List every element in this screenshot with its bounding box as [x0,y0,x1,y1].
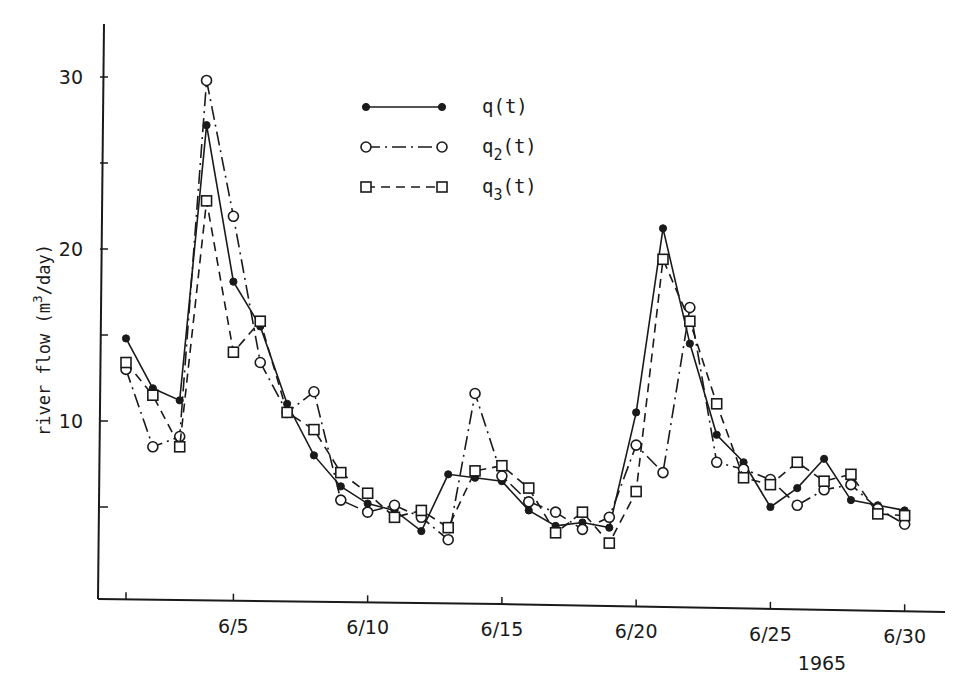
point-marker-filled-circle [847,497,854,504]
point-marker-filled-circle [438,103,445,110]
point-marker-open-square [363,488,373,498]
point-marker-open-circle [631,440,641,450]
point-marker-open-circle [792,500,802,510]
point-marker-open-square [739,473,749,483]
point-marker-open-circle [846,480,856,490]
point-marker-open-square [497,461,507,471]
point-marker-open-square [658,254,668,264]
point-marker-filled-circle [525,507,532,514]
point-marker-open-square [437,182,447,192]
legend-item: q(t) [362,95,527,117]
point-marker-open-circle [685,302,695,312]
point-marker-open-square [390,512,400,522]
legend-label: q2(t) [482,135,537,164]
legend-label: q(t) [482,95,528,117]
x-tick-label: 6/5 [218,615,249,637]
point-marker-open-square [361,182,371,192]
point-marker-open-square [819,476,829,486]
point-marker-open-square [309,425,319,435]
point-marker-open-circle [228,211,238,221]
x-tick-label: 6/30 [883,625,926,647]
point-marker-open-circle [336,495,346,505]
point-marker-filled-circle [633,409,640,416]
point-marker-filled-circle [418,527,425,534]
x-tick-label: 6/25 [749,623,792,645]
point-marker-open-square [846,469,856,479]
point-marker-open-circle [361,142,371,152]
point-marker-open-square [900,511,910,521]
point-marker-open-circle [712,457,722,467]
legend-item: q2(t) [361,135,537,164]
point-marker-filled-circle [606,524,613,531]
point-marker-open-circle [658,468,668,478]
point-marker-open-circle [437,142,447,152]
point-marker-open-square [551,528,561,538]
point-marker-open-circle [363,507,373,517]
point-marker-open-square [631,487,641,497]
y-tick-label: 30 [59,66,83,88]
y-tick-label: 20 [59,238,83,260]
point-marker-open-square [336,468,346,478]
series-line [126,201,905,543]
point-marker-open-circle [497,471,507,481]
y-axis: 102030 [59,24,108,599]
point-marker-open-square [604,538,614,548]
point-marker-open-square [577,507,587,517]
point-marker-filled-circle [794,484,801,491]
point-marker-open-square [792,457,802,467]
x-tick-label: 6/15 [481,618,524,640]
point-marker-filled-circle [767,503,774,510]
x-tick-label: 6/10 [346,616,389,638]
point-marker-filled-circle [364,500,371,507]
river-flow-chart: 102030 6/56/106/156/206/256/30 q(t)q2(t)… [0,0,958,692]
point-marker-filled-circle [445,471,452,478]
point-marker-open-square [175,442,185,452]
point-marker-open-circle [443,535,453,545]
legend-label: q3(t) [482,175,537,204]
y-axis-title: river flow (m3/day) [30,244,54,436]
y-tick-label: 10 [59,410,83,432]
point-marker-open-square [524,483,534,493]
point-marker-open-circle [470,388,480,398]
x-axis-line [98,599,945,612]
x-axis-title: 1965 [798,652,846,674]
point-marker-filled-circle [821,455,828,462]
point-marker-open-square [121,358,131,368]
y-axis-line [98,24,104,599]
point-marker-open-square [873,509,883,519]
point-marker-filled-circle [310,452,317,459]
point-marker-open-square [443,523,453,533]
point-marker-open-circle [255,358,265,368]
point-marker-open-square [282,407,292,417]
point-marker-filled-circle [713,431,720,438]
point-marker-open-circle [577,524,587,534]
point-marker-filled-circle [122,335,129,342]
point-marker-open-square [470,466,480,476]
point-marker-filled-circle [659,225,666,232]
point-marker-open-square [765,480,775,490]
point-marker-filled-circle [686,340,693,347]
point-marker-open-square [416,505,426,515]
point-marker-open-square [148,390,158,400]
point-marker-open-circle [604,512,614,522]
point-marker-open-circle [390,500,400,510]
point-marker-filled-circle [362,103,369,110]
point-marker-open-circle [524,497,534,507]
point-marker-open-circle [309,387,319,397]
legend-item: q3(t) [361,175,537,204]
point-marker-open-square [202,196,212,206]
x-tick-label: 6/20 [615,620,658,642]
point-marker-open-square [685,316,695,326]
point-marker-open-square [712,399,722,409]
legend: q(t)q2(t)q3(t) [361,95,537,204]
point-marker-open-circle [202,75,212,85]
x-axis: 6/56/106/156/206/256/30 [98,592,945,647]
point-marker-open-square [255,316,265,326]
point-marker-open-circle [551,507,561,517]
point-marker-filled-circle [230,278,237,285]
point-marker-open-square [228,347,238,357]
point-marker-open-circle [148,442,158,452]
